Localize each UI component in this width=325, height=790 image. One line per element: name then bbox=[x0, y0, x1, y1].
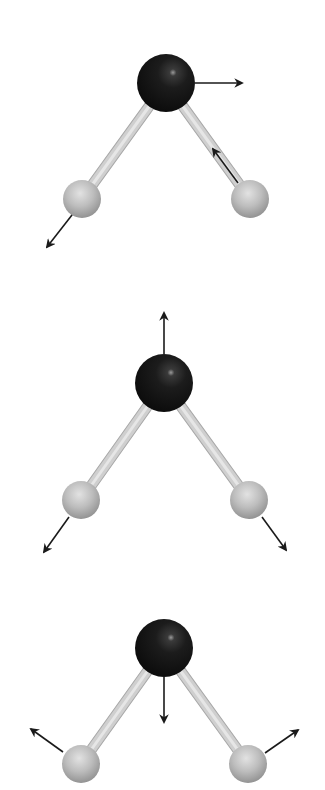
vibrational-modes-diagram bbox=[0, 0, 325, 790]
displacement-arrow-icon bbox=[31, 729, 63, 752]
displacement-arrow-icon bbox=[265, 730, 298, 753]
diagram-canvas bbox=[0, 0, 325, 790]
outer-atom-right bbox=[231, 180, 269, 218]
central-atom bbox=[137, 54, 195, 112]
mode-symmetric-stretch bbox=[44, 313, 286, 552]
central-atom bbox=[135, 619, 193, 677]
mode-asymmetric-stretch bbox=[47, 54, 269, 247]
outer-atom-right bbox=[230, 481, 268, 519]
central-atom bbox=[135, 354, 193, 412]
outer-atom-right bbox=[229, 745, 267, 783]
outer-atom-left bbox=[63, 180, 101, 218]
displacement-arrow-icon bbox=[213, 149, 238, 183]
displacement-arrow-icon bbox=[44, 517, 69, 552]
outer-atom-left bbox=[62, 481, 100, 519]
displacement-arrow-icon bbox=[262, 517, 286, 550]
mode-bending bbox=[31, 619, 298, 783]
outer-atom-left bbox=[62, 745, 100, 783]
displacement-arrow-icon bbox=[47, 215, 72, 247]
